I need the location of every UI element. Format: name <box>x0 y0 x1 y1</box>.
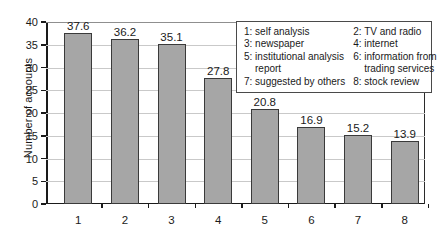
x-axis-tick <box>288 204 290 208</box>
y-axis-tick <box>41 67 46 69</box>
bar: 27.8 <box>204 78 232 204</box>
bar-value-label: 13.9 <box>393 128 415 140</box>
bar-value-label: 16.9 <box>300 114 322 126</box>
legend-column-left: 1: self analysis3: newspaper5: instituti… <box>244 26 345 88</box>
legend-entry-label: 7: suggested by others <box>244 76 345 87</box>
bar-value-label: 20.8 <box>254 96 276 108</box>
bar-value-label: 37.6 <box>67 20 89 32</box>
legend-entry-label: 4: internet <box>353 38 397 49</box>
legend-entry: 2: TV and radio <box>353 26 436 38</box>
legend-entry-continuation: report <box>244 63 345 75</box>
bar-value-label: 36.2 <box>114 26 136 38</box>
y-axis-tick <box>41 21 46 23</box>
y-axis-tick <box>41 112 46 114</box>
legend-entry-label: 1: self analysis <box>244 26 310 37</box>
y-axis-tick <box>41 44 46 46</box>
legend-box: 1: self analysis3: newspaper5: instituti… <box>236 21 432 93</box>
x-axis-tick <box>241 204 243 208</box>
y-axis-tick-label: 25 <box>26 84 38 96</box>
x-axis-tick <box>334 204 336 208</box>
y-axis-tick-label: 30 <box>26 62 38 74</box>
x-axis-tick <box>148 204 150 208</box>
x-axis-tick-label: 8 <box>401 214 407 226</box>
legend-entry: 1: self analysis <box>244 26 345 38</box>
legend-entry: 7: suggested by others <box>244 76 345 88</box>
bar: 15.2 <box>344 135 372 204</box>
bar: 13.9 <box>391 141 419 204</box>
bar: 37.6 <box>64 33 92 204</box>
y-axis-tick <box>41 181 46 183</box>
x-axis-tick <box>381 204 383 208</box>
y-axis-tick-label: 40 <box>26 16 38 28</box>
bar-value-label: 35.1 <box>160 31 182 43</box>
legend-entry-label: 3: newspaper <box>244 38 304 49</box>
bar-value-label: 27.8 <box>207 65 229 77</box>
bar-value-label: 15.2 <box>347 122 369 134</box>
x-axis-tick <box>428 204 430 208</box>
legend-entry-label: 5: institutional analysis <box>244 51 344 62</box>
x-axis-tick-label: 4 <box>215 214 221 226</box>
legend-column-right: 2: TV and radio4: internet6: information… <box>353 26 436 88</box>
gridline <box>46 113 425 114</box>
y-axis-tick-label: 15 <box>26 130 38 142</box>
x-axis-tick <box>101 204 103 208</box>
legend-entry: 5: institutional analysisreport <box>244 51 345 76</box>
bar: 36.2 <box>111 39 139 204</box>
bar: 16.9 <box>297 127 325 204</box>
legend-entry-label: 8: stock review <box>353 76 419 87</box>
legend-entry-continuation: trading services <box>353 63 436 75</box>
x-axis-tick <box>195 204 197 208</box>
y-axis-tick-label: 10 <box>26 153 38 165</box>
y-axis-tick-label: 20 <box>26 107 38 119</box>
bar: 35.1 <box>158 44 186 204</box>
y-axis-tick-label: 35 <box>26 39 38 51</box>
x-axis-tick-label: 2 <box>122 214 128 226</box>
x-axis-tick-label: 7 <box>355 214 361 226</box>
y-axis-tick <box>41 203 46 205</box>
legend-entry: 6: information fromtrading services <box>353 51 436 76</box>
y-axis-tick <box>41 135 46 137</box>
x-axis-tick-label: 3 <box>168 214 174 226</box>
y-axis-tick-label: 5 <box>32 175 38 187</box>
bar-chart-figure: Number of accounts 051015202530354037.61… <box>0 0 444 248</box>
legend-entry-label: 6: information from <box>353 51 436 62</box>
x-axis-tick-label: 5 <box>262 214 268 226</box>
y-axis-tick-label: 0 <box>32 198 38 210</box>
bar: 20.8 <box>251 109 279 204</box>
y-axis-tick <box>41 158 46 160</box>
legend-entry: 3: newspaper <box>244 38 345 50</box>
legend-entry-label: 2: TV and radio <box>353 26 421 37</box>
x-axis-tick-label: 6 <box>308 214 314 226</box>
y-axis-tick <box>41 90 46 92</box>
legend-entry: 8: stock review <box>353 76 436 88</box>
x-axis-tick-label: 1 <box>75 214 81 226</box>
legend-entry: 4: internet <box>353 38 436 50</box>
